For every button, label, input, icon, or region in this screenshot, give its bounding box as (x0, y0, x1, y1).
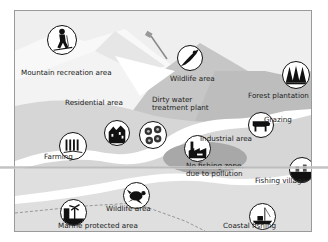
label-farming: Farming (44, 153, 73, 161)
label-mountain-recreation: Mountain recreation area (21, 69, 112, 77)
label-fishing-village: Fishing village (255, 177, 306, 185)
label-coastal-fishing: Coastal fishing (223, 222, 276, 230)
label-wildlife-upper: Wildlife area (170, 75, 215, 83)
diagram-frame: Mountain recreation area Wildlife area F… (14, 10, 312, 232)
label-wildlife-lower: Wildlife area (106, 205, 151, 213)
label-marine-protected: Marine protected area (58, 222, 138, 230)
label-grazing: Grazing (264, 116, 292, 124)
label-industrial: Industrial area (200, 135, 252, 143)
horizontal-band (0, 166, 328, 169)
label-forest-plantation: Forest plantation (248, 92, 309, 100)
label-residential: Residential area (65, 99, 123, 107)
eagle-icon (177, 45, 203, 71)
label-dirty-water-2: treatment plant (152, 104, 209, 112)
pine-trees-icon (282, 61, 310, 89)
houses-icon (104, 120, 130, 146)
skier-icon (47, 25, 77, 55)
label-no-fishing-2: due to pollution (186, 170, 243, 178)
sewage-tanks-icon (139, 121, 167, 149)
